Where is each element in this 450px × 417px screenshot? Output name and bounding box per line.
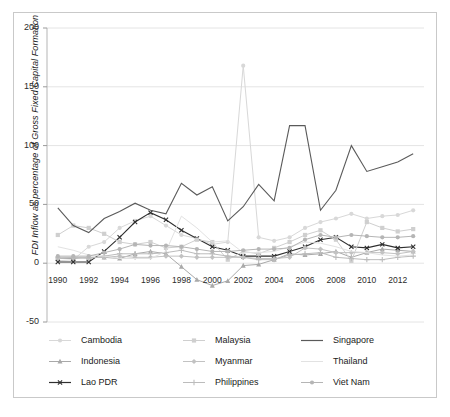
legend-marker-icon — [299, 330, 325, 351]
data-point-marker — [164, 243, 168, 247]
legend-marker-icon — [181, 330, 207, 351]
y-tick-label: 50 — [5, 198, 39, 208]
data-point-marker — [71, 254, 75, 258]
legend-marker-icon — [181, 351, 207, 372]
data-point-marker — [241, 248, 245, 252]
data-point-marker — [318, 233, 322, 237]
data-point-marker — [133, 242, 137, 246]
legend-item-myanmar[interactable]: Myanmar — [181, 351, 311, 372]
legend-marker-icon — [299, 372, 325, 393]
data-point-marker — [148, 243, 152, 247]
data-point-marker — [102, 240, 106, 244]
data-point-marker — [257, 235, 261, 239]
legend-marker-icon — [47, 330, 73, 351]
legend-item-viet-nam[interactable]: Viet Nam — [299, 372, 429, 393]
legend-marker-icon — [47, 351, 73, 372]
legend-item-lao-pdr[interactable]: Lao PDR — [47, 372, 177, 393]
legend-column: SingaporeThailandViet Nam — [299, 330, 429, 393]
x-tick-label: 2012 — [380, 275, 416, 285]
data-point-marker — [164, 223, 168, 227]
data-point-marker — [287, 246, 291, 250]
data-point-marker — [395, 255, 400, 260]
data-point-marker — [303, 233, 307, 237]
data-point-marker — [365, 234, 369, 238]
data-point-marker — [87, 254, 91, 258]
data-point-marker — [118, 226, 122, 230]
data-point-marker — [318, 228, 322, 232]
y-tick-label: 100 — [5, 140, 39, 150]
data-point-marker — [411, 227, 415, 231]
y-tick-label: -50 — [5, 316, 39, 326]
data-point-marker — [102, 232, 106, 236]
data-point-marker — [318, 250, 323, 255]
data-point-marker — [179, 254, 184, 259]
legend-marker-icon — [299, 351, 325, 372]
y-tick-label: 150 — [5, 81, 39, 91]
data-point-marker — [303, 226, 307, 230]
legend-label: Thailand — [333, 351, 368, 372]
legend-label: Myanmar — [215, 351, 253, 372]
legend-label: Cambodia — [81, 330, 122, 351]
data-point-marker — [334, 216, 338, 220]
legend-label: Singapore — [333, 330, 374, 351]
legend-label: Philippines — [215, 372, 259, 393]
data-point-marker — [364, 257, 369, 262]
data-point-marker — [192, 338, 196, 342]
data-point-marker — [380, 235, 384, 239]
legend-item-indonesia[interactable]: Indonesia — [47, 351, 177, 372]
data-point-marker — [272, 247, 276, 251]
data-point-marker — [380, 257, 385, 262]
legend-label: Indonesia — [81, 351, 120, 372]
data-point-marker — [334, 235, 338, 239]
data-point-marker — [194, 251, 199, 256]
legend-item-philippines[interactable]: Philippines — [181, 372, 311, 393]
y-tick-label: 200 — [5, 22, 39, 32]
legend-label: Lao PDR — [81, 372, 118, 393]
legend-label: Viet Nam — [333, 372, 370, 393]
data-point-marker — [179, 233, 183, 237]
data-point-marker — [349, 233, 353, 237]
legend-item-cambodia[interactable]: Cambodia — [47, 330, 177, 351]
data-point-marker — [365, 220, 369, 224]
data-point-marker — [56, 233, 60, 237]
data-point-marker — [87, 226, 91, 230]
data-point-marker — [410, 253, 415, 258]
data-point-marker — [396, 213, 400, 217]
data-point-marker — [164, 218, 168, 222]
data-point-marker — [179, 228, 183, 232]
data-point-marker — [87, 245, 91, 249]
data-point-marker — [380, 214, 384, 218]
data-point-marker — [287, 240, 291, 244]
series-line — [58, 66, 413, 261]
data-point-marker — [287, 235, 291, 239]
data-point-marker — [191, 359, 196, 364]
chart-legend: CambodiaIndonesiaLao PDRMalaysiaMyanmarP… — [47, 330, 427, 394]
data-point-marker — [118, 240, 122, 244]
data-point-marker — [380, 226, 384, 230]
data-point-marker — [195, 247, 199, 251]
data-point-marker — [396, 229, 400, 233]
data-point-marker — [58, 338, 62, 342]
legend-item-thailand[interactable]: Thailand — [299, 351, 429, 372]
data-point-marker — [272, 239, 276, 243]
data-point-marker — [333, 255, 338, 260]
data-point-marker — [411, 208, 415, 212]
series-group — [55, 64, 416, 288]
legend-column: CambodiaIndonesiaLao PDR — [47, 330, 177, 393]
data-point-marker — [191, 380, 196, 385]
legend-item-singapore[interactable]: Singapore — [299, 330, 429, 351]
data-point-marker — [257, 247, 261, 251]
data-point-marker — [226, 249, 230, 253]
data-point-marker — [118, 247, 122, 251]
data-point-marker — [118, 235, 122, 239]
data-point-marker — [333, 250, 338, 255]
y-tick-label: 0 — [5, 257, 39, 267]
data-point-marker — [241, 64, 245, 68]
data-point-marker — [318, 220, 322, 224]
data-point-marker — [396, 235, 400, 239]
legend-item-malaysia[interactable]: Malaysia — [181, 330, 311, 351]
legend-marker-icon — [181, 372, 207, 393]
chart-figure: FDI Inflow as percentage of Gross Fixed … — [0, 0, 450, 417]
data-point-marker — [195, 238, 199, 242]
data-point-marker — [102, 251, 106, 255]
